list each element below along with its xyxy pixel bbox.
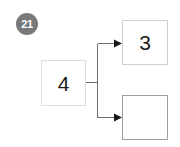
arrowhead-top [114,40,122,48]
node-source-label: 4 [58,73,70,94]
node-target-top[interactable]: 3 [122,20,168,65]
diagram-canvas: 21 4 3 [0,0,180,147]
node-target-top-label: 3 [139,32,151,53]
step-badge: 21 [16,13,38,35]
node-source[interactable]: 4 [41,60,86,106]
arrowhead-bottom [114,114,122,122]
node-target-bottom[interactable] [122,95,168,140]
